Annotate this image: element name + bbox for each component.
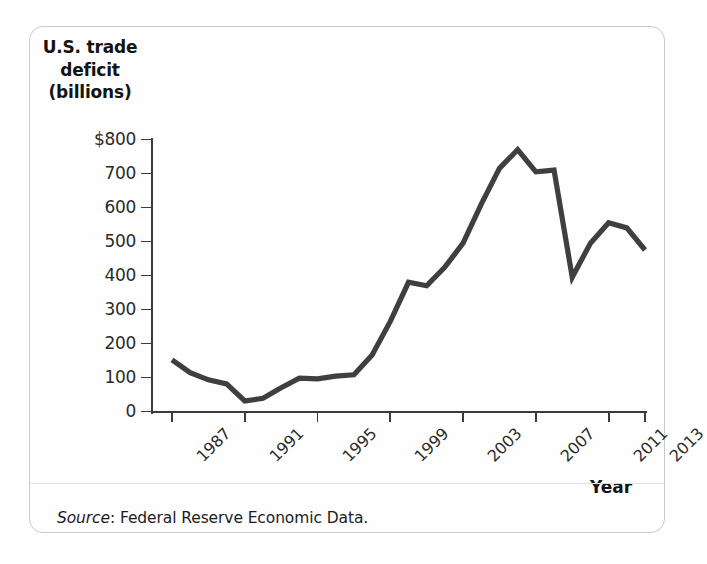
y-axis-title-line-1: U.S. trade [36, 36, 144, 59]
source-word: Source [57, 509, 110, 527]
source-text: : Federal Reserve Economic Data. [110, 509, 368, 527]
source-note: Source: Federal Reserve Economic Data. [57, 509, 368, 527]
y-axis-title-line-3: (billions) [36, 81, 144, 104]
y-axis-title-line-2: deficit [36, 59, 144, 82]
y-axis-title: U.S. trade deficit (billions) [36, 36, 144, 104]
x-axis-title: Year [590, 477, 632, 497]
x-tick-label-2013: 2013 [666, 424, 707, 466]
source-divider [30, 483, 664, 484]
